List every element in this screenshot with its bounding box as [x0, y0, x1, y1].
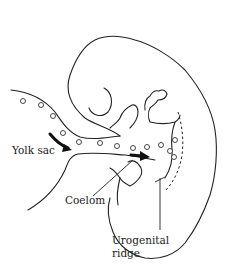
urogenital-ridge-label-line1: Urogenital [112, 234, 169, 246]
yolk-sac-upper-wall [11, 90, 120, 139]
embryo-head-outline [68, 36, 216, 258]
diagram-canvas: Yolk sac Coelom Urogenital ridge [0, 0, 230, 269]
embryo-diagram [0, 0, 230, 269]
yolk-sac-label: Yolk sac [12, 144, 55, 156]
tail-fold [117, 178, 120, 205]
upper-limb-bud [145, 90, 180, 124]
pharyngeal-arches [110, 105, 138, 128]
lower-limb-bud [110, 161, 142, 186]
head-fold-curve [89, 88, 111, 115]
coelom-label: Coelom [65, 194, 105, 206]
coelom-leader [93, 160, 133, 196]
urogenital-ridge-label-line2: ridge [112, 247, 140, 259]
